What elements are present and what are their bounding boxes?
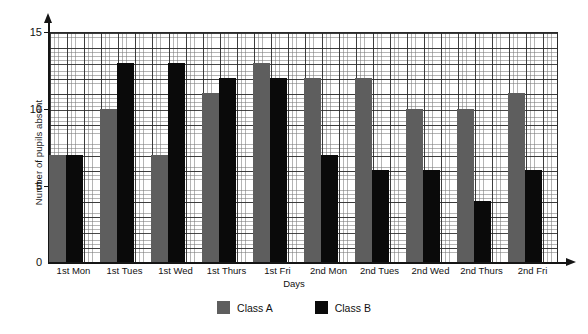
x-axis-arrow-icon: [566, 258, 576, 266]
bar: [508, 93, 525, 262]
bar: [304, 78, 321, 262]
bar: [100, 109, 117, 263]
legend-item[interactable]: Class A: [217, 301, 273, 314]
x-tick-label: 2nd Fri: [503, 265, 563, 276]
y-tick-label: 15: [18, 27, 42, 37]
bar: [423, 170, 440, 262]
bar: [151, 155, 168, 263]
bar: [202, 93, 219, 262]
legend-swatch-icon: [217, 301, 230, 314]
bar-chart: Number of pupils absent 051015 1st Mon1s…: [0, 0, 588, 334]
y-tick-label: 5: [18, 181, 42, 191]
bar: [219, 78, 236, 262]
bar: [474, 201, 491, 262]
chart-legend: Class AClass B: [0, 301, 588, 314]
bar: [168, 63, 185, 263]
bar: [406, 109, 423, 263]
bar: [457, 109, 474, 263]
legend-swatch-icon: [315, 301, 328, 314]
y-tick-label: 0: [18, 257, 42, 267]
y-tick-label: 10: [18, 104, 42, 114]
bar: [355, 78, 372, 262]
y-axis-title: Number of pupils absent: [33, 53, 44, 253]
bars-layer: [48, 32, 558, 262]
bar: [253, 63, 270, 263]
legend-label: Class A: [237, 302, 273, 314]
bar: [66, 155, 83, 263]
bar: [117, 63, 134, 263]
bar: [372, 170, 389, 262]
x-axis-title: Days: [0, 278, 588, 289]
legend-label: Class B: [335, 302, 371, 314]
y-axis-arrow-icon: [44, 13, 52, 23]
bar: [321, 155, 338, 263]
bar: [49, 155, 66, 263]
bar: [525, 170, 542, 262]
bar: [270, 78, 287, 262]
legend-item[interactable]: Class B: [315, 301, 371, 314]
